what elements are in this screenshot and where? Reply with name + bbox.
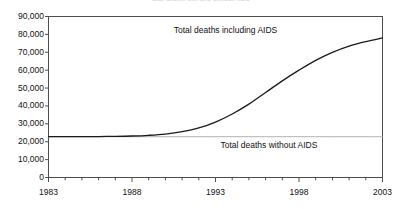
series-annotation-label: Total deaths without AIDS (221, 141, 318, 150)
x-axis-tick-label: 1983 (39, 188, 58, 197)
chart-figure: Total deaths with and without AIDS 90,00… (0, 0, 400, 209)
x-axis-tick-label: 2003 (373, 188, 392, 197)
x-axis-tick-label: 1993 (206, 188, 225, 197)
x-axis-tick-label: 1998 (290, 188, 309, 197)
x-axis-tick-label: 1988 (123, 188, 142, 197)
series-annotation-label: Total deaths including AIDS (174, 26, 277, 35)
